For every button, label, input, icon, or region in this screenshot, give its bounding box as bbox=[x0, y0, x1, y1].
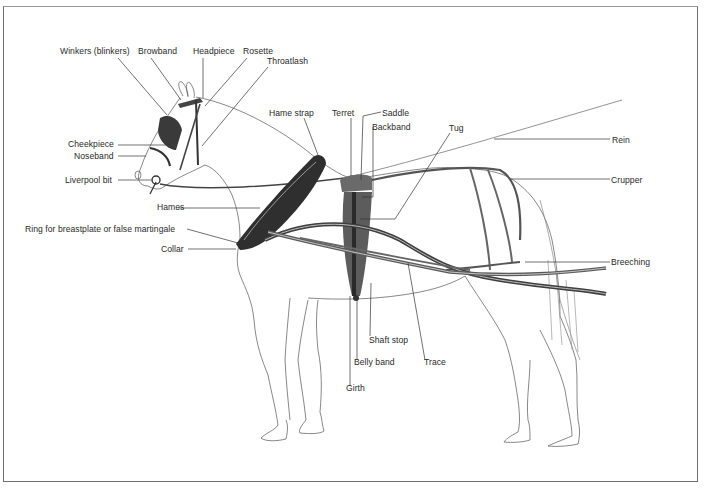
label-cheekpiece: Cheekpiece bbox=[68, 139, 114, 149]
label-winkers: Winkers (blinkers) bbox=[60, 46, 130, 56]
label-browband: Browband bbox=[138, 46, 177, 56]
label-saddle: Saddle bbox=[382, 108, 409, 118]
label-collar: Collar bbox=[161, 244, 184, 254]
label-headpiece: Headpiece bbox=[193, 46, 235, 56]
label-backband: Backband bbox=[372, 122, 411, 132]
label-crupper: Crupper bbox=[611, 175, 642, 185]
label-shaft-stop: Shaft stop bbox=[369, 335, 408, 345]
label-hames: Hames bbox=[157, 202, 184, 212]
label-throatlash: Throatlash bbox=[267, 56, 308, 66]
label-rosette: Rosette bbox=[243, 46, 273, 56]
label-trace: Trace bbox=[424, 357, 446, 367]
label-liverpool-bit: Liverpool bit bbox=[65, 175, 112, 185]
label-rein: Rein bbox=[612, 135, 630, 145]
label-belly-band: Belly band bbox=[354, 357, 395, 367]
label-tug: Tug bbox=[449, 123, 464, 133]
horse-harness-illustration bbox=[0, 0, 704, 493]
label-ring: Ring for breastplate or false martingale bbox=[25, 224, 175, 234]
label-girth: Girth bbox=[346, 383, 365, 393]
label-noseband: Noseband bbox=[74, 151, 114, 161]
label-hame-strap: Hame strap bbox=[269, 108, 314, 118]
label-terret: Terret bbox=[332, 108, 354, 118]
label-breeching: Breeching bbox=[611, 257, 650, 267]
